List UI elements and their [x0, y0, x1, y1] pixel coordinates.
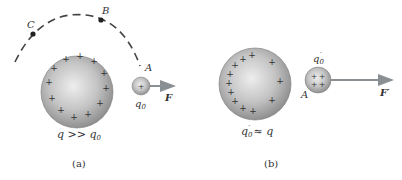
svg-text:+: + — [276, 76, 284, 86]
point-c-dot — [30, 31, 35, 36]
point-b-label: B — [101, 5, 109, 16]
svg-text:+: + — [57, 105, 65, 115]
svg-text:+: + — [62, 54, 70, 64]
svg-text:+: + — [96, 98, 104, 108]
point-b-dot — [98, 17, 103, 22]
svg-text:+: + — [268, 95, 276, 105]
test-charge-plus-b: + + + + — [311, 72, 326, 89]
svg-text:+: + — [100, 68, 108, 78]
svg-text:+: + — [311, 80, 318, 89]
point-a-label-b: A — [300, 89, 308, 100]
test-charge-plus-a: + — [138, 82, 145, 91]
svg-text:+: + — [84, 109, 92, 119]
panel-a: C B + + + + + + + + + + + + q >> q0 + A … — [15, 5, 174, 169]
svg-text:+: + — [76, 51, 84, 61]
svg-text:+: + — [90, 56, 98, 66]
point-c-label: C — [27, 19, 35, 30]
test-charge-label-a: q0 — [135, 98, 146, 111]
force-label-a: F — [164, 92, 173, 103]
svg-text:+: + — [248, 50, 256, 60]
svg-text:+: + — [231, 96, 239, 106]
svg-text:+: + — [50, 63, 58, 73]
caption-a: (a) — [72, 158, 86, 169]
svg-text:+: + — [239, 54, 247, 64]
svg-text:+: + — [102, 83, 110, 93]
caption-b: (b) — [264, 158, 278, 169]
large-charge-label-a: q >> q0 — [57, 128, 102, 142]
force-label-b: F′ — [379, 87, 390, 98]
svg-text:+: + — [70, 112, 78, 122]
svg-text:+: + — [249, 106, 257, 116]
large-charge-label-b: q0′ ≈ q — [241, 124, 273, 139]
svg-text:+: + — [268, 57, 276, 67]
electric-field-diagram: C B + + + + + + + + + + + + q >> q0 + A … — [0, 0, 402, 180]
point-a-label-a: A — [144, 62, 152, 73]
svg-text:+: + — [48, 93, 56, 103]
svg-text:+: + — [45, 77, 53, 87]
panel-b: + + + + + + + + + + + + q0′ ≈ q + + + + … — [219, 48, 392, 169]
svg-text:+: + — [239, 103, 247, 113]
test-charge-label-b: q0′ — [313, 51, 324, 66]
svg-text:+: + — [319, 80, 326, 89]
